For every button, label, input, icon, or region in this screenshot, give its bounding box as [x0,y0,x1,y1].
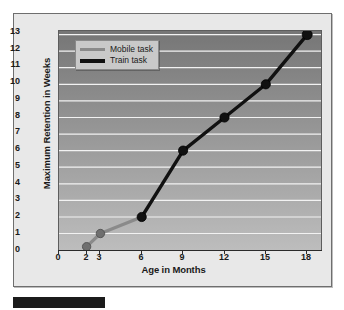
y-tick-label-5: 5 [2,161,20,170]
x-tick-label-15: 15 [255,253,275,262]
legend-label-train-task: Train task [110,56,147,65]
y-tick-label-13: 13 [2,27,20,36]
y-tick-label-12: 12 [2,44,20,53]
legend-label-mobile-task: Mobile task [110,45,153,54]
y-tick-label-7: 7 [2,127,20,136]
legend-entry-train-task: Train task [80,55,153,66]
data-point-15-10 [261,80,270,89]
y-tick-label-8: 8 [2,111,20,120]
data-point-12-8 [220,113,229,122]
x-tick-label-6: 6 [131,253,151,262]
y-tick-label-6: 6 [2,144,20,153]
x-tick-label-3: 3 [89,253,109,262]
x-axis-title: Age in Months [14,264,333,275]
y-tick-label-9: 9 [2,94,20,103]
x-tick-label-0: 0 [48,253,68,262]
legend-swatch-train-task [80,59,105,63]
y-tick-label-4: 4 [2,178,20,187]
x-tick-label-18: 18 [296,253,316,262]
series-line-mobile-task [87,217,142,247]
y-tick-label-0: 0 [2,245,20,254]
x-tick-label-9: 9 [172,253,192,262]
data-point-3-1 [96,229,104,237]
data-point-9-6 [179,146,188,155]
chart-legend: Mobile task Train task [75,40,159,70]
data-point-2-0.2 [82,243,90,251]
y-tick-label-2: 2 [2,211,20,220]
caption-bar [13,297,105,308]
x-tick-label-12: 12 [214,253,234,262]
series-line-train-task [142,35,308,217]
data-point-18-13 [302,31,312,40]
y-tick-label-3: 3 [2,194,20,203]
data-point-6-2 [137,212,146,221]
legend-swatch-mobile-task [80,48,105,51]
plot-area: Mobile task Train task [58,30,322,251]
y-tick-label-11: 11 [2,60,20,69]
legend-entry-mobile-task: Mobile task [80,44,153,55]
y-tick-label-10: 10 [2,77,20,86]
figure-frame: Maximum Retention in Weeks 0 1 2 3 4 5 6… [13,13,332,287]
y-tick-label-1: 1 [2,228,20,237]
y-axis-title: Maximum Retention in Weeks [41,29,52,219]
